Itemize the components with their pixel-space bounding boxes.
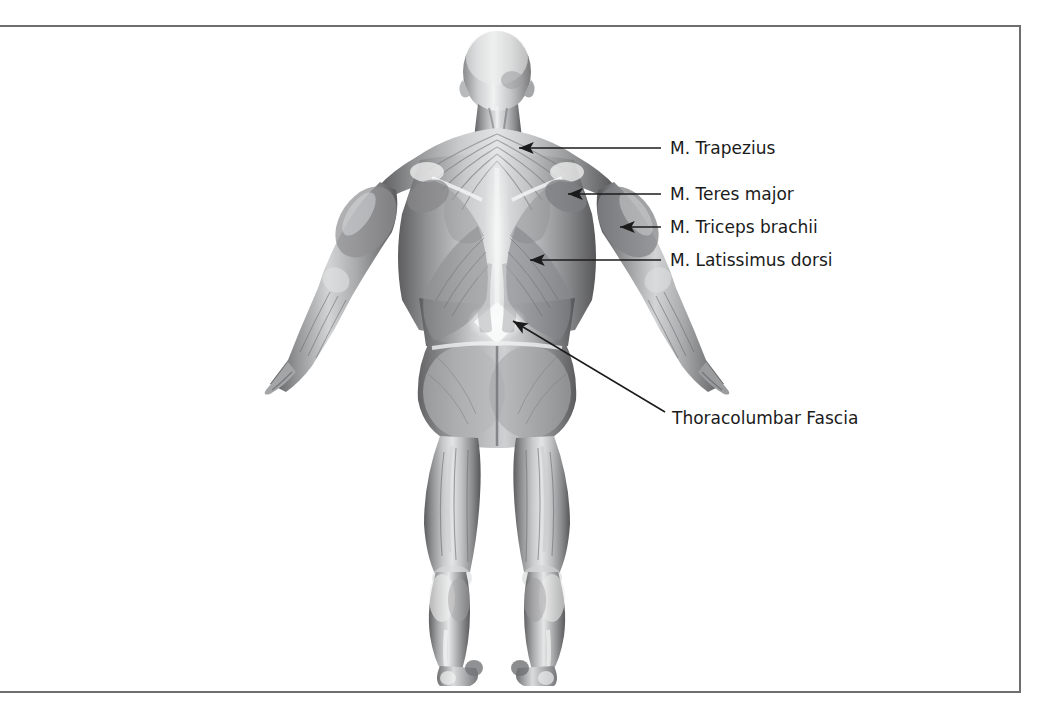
label-teres-major: M. Teres major: [670, 186, 794, 203]
diagram-frame: [0, 25, 1021, 693]
label-thoracolumbar-fascia: Thoracolumbar Fascia: [672, 410, 858, 427]
label-latissimus-dorsi: M. Latissimus dorsi: [670, 252, 833, 269]
label-trapezius: M. Trapezius: [670, 140, 775, 157]
label-triceps-brachii: M. Triceps brachii: [670, 219, 818, 236]
